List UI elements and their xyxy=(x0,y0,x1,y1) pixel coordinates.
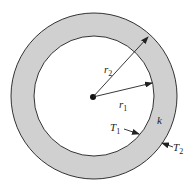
shell-diagram: r2 r1 k T1 T2 xyxy=(0,0,192,188)
t2-label: T2 xyxy=(173,141,183,156)
t2-arrow xyxy=(162,143,173,147)
